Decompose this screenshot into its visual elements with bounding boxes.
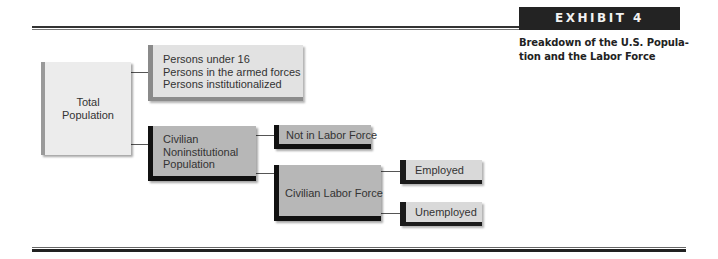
caption-line: Breakdown of the U.S. Popula- bbox=[519, 36, 689, 50]
connector-total-to-civilian bbox=[131, 144, 148, 145]
node-label: Civilian bbox=[163, 133, 238, 146]
connector-clf-to-employed bbox=[381, 171, 400, 172]
node-label: Persons institutionalized bbox=[163, 78, 301, 91]
exhibit-caption: Breakdown of the U.S. Popula- tion and t… bbox=[519, 36, 689, 63]
bottom-rule bbox=[32, 247, 686, 252]
node-label: Civilian Labor Force bbox=[285, 187, 383, 200]
node-not-in-labor-force: Not in Labor Force bbox=[274, 125, 371, 149]
connector-civilian-to-notinlf bbox=[256, 135, 274, 136]
top-rule bbox=[32, 26, 520, 30]
node-civilian-labor-force: Civilian Labor Force bbox=[274, 165, 381, 221]
node-label: Population bbox=[163, 158, 238, 171]
node-label: Not in Labor Force bbox=[286, 129, 377, 142]
node-label: Noninstitutional bbox=[163, 146, 238, 159]
node-label: Persons under 16 bbox=[163, 53, 301, 66]
node-unemployed: Unemployed bbox=[400, 202, 482, 226]
node-total-population: Total Population bbox=[41, 62, 131, 155]
node-label: Employed bbox=[415, 164, 464, 177]
node-excluded-persons: Persons under 16 Persons in the armed fo… bbox=[148, 45, 303, 101]
node-employed: Employed bbox=[400, 160, 482, 184]
caption-line: tion and the Labor Force bbox=[519, 50, 689, 64]
exhibit-tag: EXHIBIT 4 bbox=[519, 7, 680, 30]
connector-civilian-to-clf bbox=[256, 173, 274, 174]
connector-total-to-excluded bbox=[131, 72, 148, 73]
connector-clf-to-unemployed bbox=[381, 213, 400, 214]
node-label: Unemployed bbox=[415, 206, 477, 219]
node-label: Total bbox=[45, 96, 131, 109]
node-civilian-noninstitutional-population: Civilian Noninstitutional Population bbox=[148, 126, 256, 181]
node-label: Persons in the armed forces bbox=[163, 66, 301, 79]
node-label: Population bbox=[45, 109, 131, 122]
